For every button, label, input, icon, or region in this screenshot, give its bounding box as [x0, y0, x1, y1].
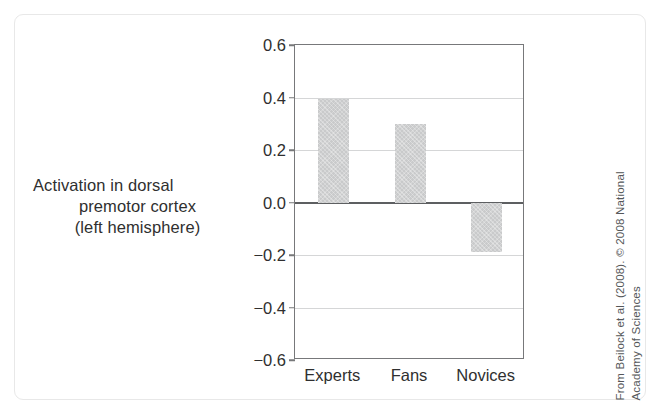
figure-credit-line-2: Academy of Sciences — [631, 286, 643, 400]
figure-card: Activation in dorsal premotor cortex (le… — [14, 14, 646, 400]
x-label-novices: Novices — [456, 367, 515, 384]
plot-area: 0.60.40.20.0−0.2−0.4−0.6 ExpertsFansNovi… — [15, 15, 647, 401]
y-tick-label: −0.4 — [253, 299, 286, 316]
y-tick-label: 0.0 — [263, 194, 286, 211]
x-label-experts: Experts — [304, 367, 360, 384]
y-tick-label: 0.4 — [263, 89, 286, 106]
figure-credit-line-1: From Beilock et al. (2008). © 2008 Natio… — [615, 171, 627, 400]
y-tick-mark — [289, 97, 295, 99]
y-tick-label: −0.6 — [253, 352, 286, 369]
bar-experts — [318, 99, 349, 203]
y-tick-label: 0.2 — [263, 142, 286, 159]
bar-fans — [395, 124, 426, 203]
plot-frame: 0.60.40.20.0−0.2−0.4−0.6 — [294, 44, 524, 359]
gridline — [295, 255, 523, 256]
figure-credit: From Beilock et al. (2008). © 2008 Natio… — [612, 14, 656, 400]
y-tick-label: −0.2 — [253, 247, 286, 264]
y-tick-mark — [289, 202, 295, 204]
y-tick-mark — [289, 149, 295, 151]
gridline — [295, 308, 523, 309]
y-tick-label: 0.6 — [263, 37, 286, 54]
x-label-fans: Fans — [391, 367, 428, 384]
y-tick-mark — [289, 307, 295, 309]
bar-novices — [471, 203, 502, 253]
y-tick-mark — [289, 254, 295, 256]
y-tick-mark — [289, 359, 295, 361]
y-tick-mark — [289, 44, 295, 46]
